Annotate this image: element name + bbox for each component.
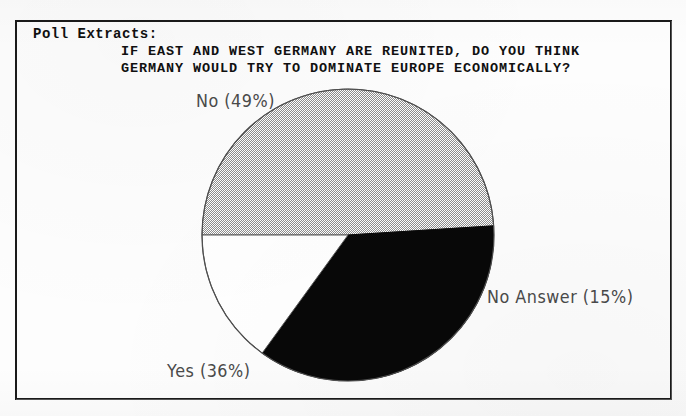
question-line-2: GERMANY WOULD TRY TO DOMINATE EUROPE ECO… [121, 61, 571, 76]
pie-label-no-answer: No Answer (15%) [487, 287, 633, 308]
pie-chart [201, 88, 495, 382]
question-line-1: IF EAST AND WEST GERMANY ARE REUNITED, D… [121, 44, 580, 59]
pie-chart-svg [201, 88, 495, 382]
pie-label-no: No (49%) [196, 91, 275, 112]
section-label: Poll Extracts: [33, 26, 158, 42]
pie-label-yes: Yes (36%) [167, 361, 250, 382]
scanned-poll-page: Poll Extracts: IF EAST AND WEST GERMANY … [0, 0, 686, 416]
